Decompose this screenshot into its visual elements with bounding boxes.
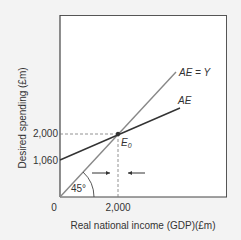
y-axis-label: Desired spending (£m): [17, 67, 28, 168]
equilibrium-point: [116, 132, 120, 136]
y-tick-1060: 1,060: [33, 155, 58, 166]
x-axis-label: Real national income (GDP)(£m): [70, 220, 215, 231]
y-tick-2000: 2,000: [33, 128, 58, 139]
arrow-left-head: [128, 171, 132, 175]
angle-label: 45°: [71, 183, 86, 194]
arrow-right-head: [106, 171, 110, 175]
chart-canvas: 2,000 1,060 0 2,000 Real national income…: [0, 0, 241, 240]
x-tick-2000: 2,000: [105, 202, 130, 213]
x-tick-origin: 0: [51, 202, 57, 213]
label-e0: E0: [121, 137, 132, 149]
label-ae: AE: [177, 95, 192, 106]
label-ae-equals-y-a: AE = Y: [178, 67, 212, 78]
